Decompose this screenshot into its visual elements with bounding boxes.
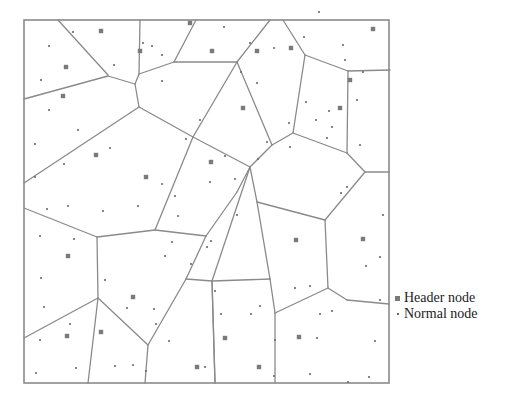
normal-node <box>40 79 42 81</box>
voronoi-edge <box>272 133 293 145</box>
voronoi-edge <box>88 298 98 383</box>
voronoi-edge <box>250 145 272 167</box>
normal-node <box>316 337 318 339</box>
normal-node <box>69 323 71 325</box>
normal-node <box>114 365 116 367</box>
normal-node <box>145 370 147 372</box>
normal-node <box>347 381 349 383</box>
normal-node <box>72 31 74 33</box>
normal-node <box>331 310 333 312</box>
voronoi-edge <box>24 107 139 183</box>
normal-node <box>234 178 236 180</box>
header-node <box>289 46 293 50</box>
normal-node <box>204 366 206 368</box>
normal-node <box>39 235 41 237</box>
normal-node <box>309 285 311 287</box>
voronoi-edge <box>347 153 365 172</box>
header-node <box>209 160 213 164</box>
normal-node <box>256 82 258 84</box>
header-node <box>64 65 68 69</box>
normal-node <box>356 99 358 101</box>
header-node <box>257 365 261 369</box>
normal-node <box>250 313 252 315</box>
voronoi-edge <box>193 137 250 167</box>
normal-node <box>220 313 222 315</box>
header-node <box>144 175 148 179</box>
header-node <box>99 330 103 334</box>
normal-node <box>379 256 381 258</box>
voronoi-edge <box>108 76 135 84</box>
normal-node <box>273 47 275 49</box>
header-node <box>188 21 192 25</box>
voronoi-edge <box>24 76 108 99</box>
voronoi-edge <box>155 137 193 230</box>
header-node <box>255 49 259 53</box>
normal-node <box>63 163 65 165</box>
voronoi-edge <box>250 167 257 202</box>
header-node <box>297 335 301 339</box>
voronoi-edges <box>24 20 390 383</box>
normal-node <box>273 375 275 377</box>
voronoi-edge <box>212 279 270 281</box>
normal-node <box>331 126 333 128</box>
normal-node <box>168 340 170 342</box>
header-node <box>223 336 227 340</box>
header-node <box>338 106 342 110</box>
normal-node <box>185 138 187 140</box>
voronoi-edge <box>155 230 206 236</box>
normal-node <box>75 367 77 369</box>
normal-node <box>161 80 163 82</box>
voronoi-edge <box>212 167 250 281</box>
voronoi-edge <box>347 71 348 153</box>
voronoi-edge <box>293 133 347 153</box>
voronoi-edge <box>347 300 389 304</box>
header-node <box>195 365 199 369</box>
normal-node <box>236 214 238 216</box>
normal-node <box>77 129 79 131</box>
voronoi-edge <box>145 345 148 383</box>
normal-node <box>224 155 226 157</box>
normal-node <box>274 339 276 341</box>
normal-node <box>34 143 36 145</box>
normal-node <box>171 241 173 243</box>
normal-node <box>309 373 311 375</box>
header-node <box>99 29 103 33</box>
voronoi-edge <box>97 230 155 237</box>
normal-node <box>214 290 216 292</box>
header-node <box>210 49 214 53</box>
normal-node <box>319 313 321 315</box>
voronoi-edge <box>186 236 206 279</box>
normal-node <box>346 186 348 188</box>
voronoi-edge <box>237 20 270 62</box>
normal-node <box>161 183 163 185</box>
voronoi-edge <box>325 220 328 288</box>
legend-label-normal-node: Normal node <box>404 306 477 322</box>
normal-node <box>289 146 291 148</box>
diagram-frame <box>24 20 389 383</box>
normal-node <box>73 238 75 240</box>
normal-node <box>137 205 139 207</box>
normal-node <box>305 101 307 103</box>
normal-node <box>142 42 144 44</box>
header-node <box>371 27 375 31</box>
normal-node <box>34 176 36 178</box>
normal-node <box>190 263 192 265</box>
normal-nodes <box>34 11 384 383</box>
voronoi-edge <box>139 62 174 74</box>
voronoi-edge <box>257 202 270 279</box>
normal-node <box>153 308 155 310</box>
voronoi-edge <box>348 70 390 71</box>
normal-node <box>48 109 50 111</box>
normal-node <box>382 214 384 216</box>
header-node <box>131 295 135 299</box>
voronoi-diagram <box>0 0 522 400</box>
voronoi-edge <box>328 288 347 300</box>
voronoi-edge <box>270 279 275 313</box>
header-node <box>361 237 365 241</box>
normal-node <box>326 137 328 139</box>
normal-node <box>104 279 106 281</box>
normal-node <box>209 181 211 183</box>
voronoi-edge <box>139 107 193 137</box>
normal-node <box>344 59 346 61</box>
voronoi-edge <box>24 208 97 237</box>
